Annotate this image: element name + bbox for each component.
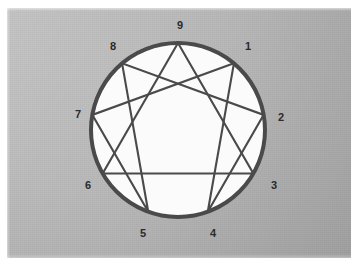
enneagram-point-label-2: 2 — [278, 111, 284, 123]
enneagram-point-label-6: 6 — [85, 179, 91, 191]
enneagram-figure: 123456789 — [0, 0, 358, 275]
enneagram-diagram: 123456789 — [0, 0, 358, 275]
enneagram-point-label-7: 7 — [75, 108, 81, 120]
enneagram-point-label-5: 5 — [140, 227, 146, 239]
enneagram-point-label-9: 9 — [177, 19, 183, 31]
enneagram-point-label-3: 3 — [271, 179, 277, 191]
enneagram-point-label-8: 8 — [110, 40, 116, 52]
enneagram-circle-layer — [91, 43, 265, 217]
enneagram-point-label-1: 1 — [245, 40, 251, 52]
enneagram-point-label-4: 4 — [210, 227, 217, 239]
